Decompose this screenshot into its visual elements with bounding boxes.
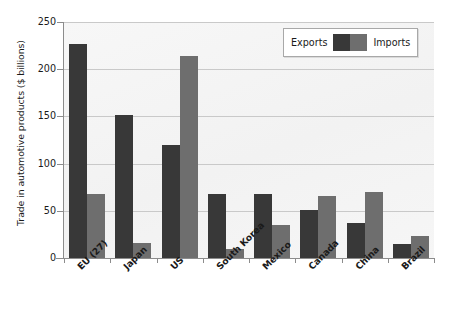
bar-group — [208, 22, 244, 258]
bar-group — [69, 22, 105, 258]
bar-exports — [347, 223, 365, 258]
y-axis-tick-label: 0 — [28, 253, 56, 263]
y-axis-tick-label: 200 — [28, 64, 56, 74]
x-axis-tick-mark — [295, 259, 296, 263]
legend-label-imports: Imports — [373, 37, 410, 48]
y-axis-tick-label: 250 — [28, 17, 56, 27]
x-axis-tick-mark — [342, 259, 343, 263]
x-axis-tick-mark — [157, 259, 158, 263]
y-axis-tick-mark — [57, 164, 64, 165]
bar-exports — [115, 115, 133, 258]
y-axis-tick-label: 150 — [28, 111, 56, 121]
bar-exports — [300, 210, 318, 258]
y-axis-line — [63, 22, 64, 259]
x-axis-tick-mark — [203, 259, 204, 263]
bar-group — [115, 22, 151, 258]
bar-group — [393, 22, 429, 258]
y-axis-tick-mark — [57, 211, 64, 212]
x-axis-tick-mark — [64, 259, 65, 263]
legend-swatches — [333, 34, 367, 51]
bar-group — [347, 22, 383, 258]
y-axis-tick-label: 50 — [28, 206, 56, 216]
chart-legend: Exports Imports — [283, 28, 418, 57]
bar-exports — [69, 44, 87, 258]
bar-exports — [208, 194, 226, 258]
bar-imports — [180, 56, 198, 258]
bar-group — [300, 22, 336, 258]
x-axis-tick-mark — [434, 259, 435, 263]
legend-swatch-exports — [333, 34, 350, 51]
legend-swatch-imports — [350, 34, 367, 51]
legend-label-exports: Exports — [291, 37, 327, 48]
x-axis-tick-mark — [249, 259, 250, 263]
bar-chart-figure: Trade in automotive products ($ billions… — [0, 0, 452, 325]
x-axis-line — [56, 258, 435, 259]
bar-exports — [162, 145, 180, 258]
y-axis-tick-mark — [57, 22, 64, 23]
x-axis-tick-mark — [388, 259, 389, 263]
plot-area — [64, 22, 434, 258]
y-axis-tick-mark — [57, 258, 64, 259]
y-axis-tick-label: 100 — [28, 159, 56, 169]
y-axis-ticks: 250200150100500 — [0, 0, 56, 325]
bar-group — [162, 22, 198, 258]
y-axis-tick-mark — [57, 69, 64, 70]
y-axis-tick-mark — [57, 116, 64, 117]
x-axis-tick-mark — [110, 259, 111, 263]
